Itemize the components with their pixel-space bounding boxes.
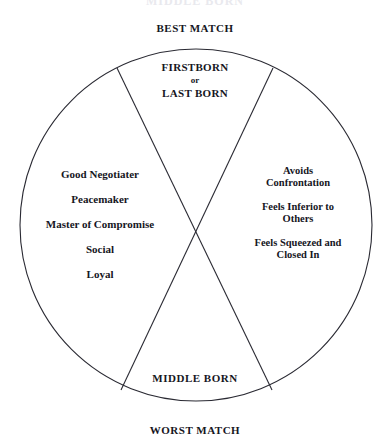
top-wedge-line-1: FIRSTBORN [0,61,390,74]
right-wedge-trait-list: Avoids Confrontation Feels Inferior to O… [222,165,374,261]
right-wedge-trait-line: Closed In [222,249,374,261]
left-wedge-trait-list: Good Negotiater Peacemaker Master of Com… [8,168,192,281]
best-match-label: BEST MATCH [0,22,390,35]
right-wedge-trait-line: Confrontation [222,177,374,189]
left-wedge-trait: Good Negotiater [8,168,192,181]
top-wedge-line-2: LAST BORN [0,87,390,100]
right-wedge-trait-line: Others [222,213,374,225]
right-wedge-trait-line: Feels Inferior to [222,201,374,213]
left-wedge-trait: Master of Compromise [8,218,192,231]
right-wedge-trait: Feels Squeezed and Closed In [222,237,374,262]
right-wedge-trait-line: Avoids [222,165,374,177]
left-wedge-trait: Peacemaker [8,193,192,206]
right-wedge-trait: Avoids Confrontation [222,165,374,190]
top-wedge-conjunction: or [0,75,390,86]
right-wedge-trait: Feels Inferior to Others [222,201,374,226]
left-wedge-trait: Social [8,243,192,256]
worst-match-label: WORST MATCH [0,424,390,437]
top-wedge-heading: FIRSTBORN or LAST BORN [0,61,390,100]
left-wedge-trait: Loyal [8,268,192,281]
right-wedge-trait-line: Feels Squeezed and [222,237,374,249]
bottom-wedge-label: MIDDLE BORN [0,372,390,385]
